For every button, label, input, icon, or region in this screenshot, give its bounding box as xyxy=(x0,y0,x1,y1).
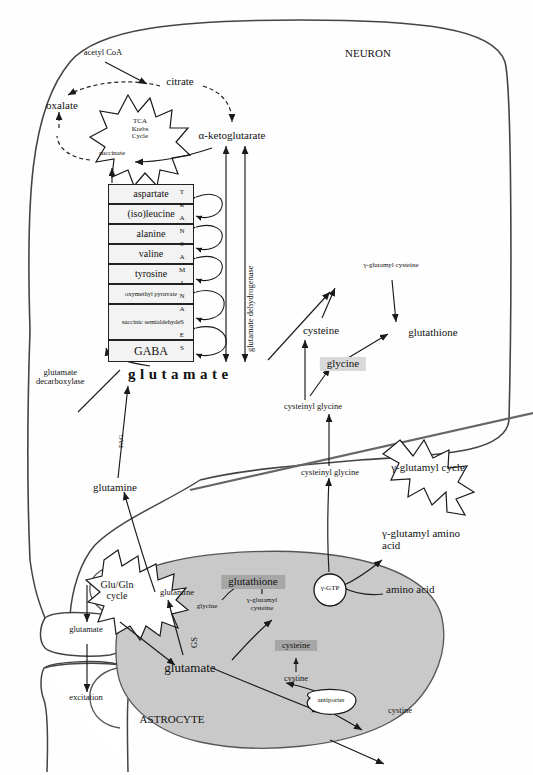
gamma-glutamyl-amino-acid-label: γ-glutamyl amino acid xyxy=(382,528,460,552)
substrate-label: alanine xyxy=(137,229,166,239)
tca-krebs-cycle-label: TCA Krebs Cycle xyxy=(132,118,149,141)
arrow-acetylcoa-citrate xyxy=(105,62,147,84)
substrate-label: succinic semialdehyde xyxy=(122,319,181,326)
oxalate-label: oxalate xyxy=(46,100,78,112)
arrow-ggtp-to-cysgly xyxy=(328,478,329,572)
astrocyte-glutamine-label: glutamine xyxy=(160,588,194,597)
alpha-ketoglutarate-label: α-ketoglutarate xyxy=(199,130,266,142)
postsynaptic-cell-outline xyxy=(41,662,131,772)
substrate-label: tyrosine xyxy=(135,269,167,279)
neuron-glycine-label: glycine xyxy=(320,357,366,371)
astrocyte-gamma-glutamyl-cysteine-label: γ-glutamyl cysteine xyxy=(247,597,277,612)
arrow-cysteinylglycine-to-glycine xyxy=(310,368,330,396)
astrocyte-glycine-label: glycine xyxy=(197,603,218,611)
astrocyte-label: ASTROCYTE xyxy=(140,714,205,726)
arrow-glycine-to-glutathione xyxy=(348,334,388,358)
astrocyte-cystine-label: cystine xyxy=(284,674,308,683)
astrocyte-cysteine-label: cysteine xyxy=(275,640,317,651)
neuron-glutathione-label: glutathione xyxy=(408,327,458,339)
substrate-label: valine xyxy=(139,249,163,259)
gamma-glutamyl-cysteine-neuron-label: γ-glutamyl cysteine xyxy=(364,262,419,270)
glutamate-main-label: glutamate xyxy=(128,366,233,382)
neuron-label: NEURON xyxy=(345,48,391,60)
transaminases-label: T R A N S A M I N A S E S xyxy=(176,186,188,355)
substrate-label: aspartate xyxy=(133,189,169,199)
tca-line-3: Cycle xyxy=(132,133,149,141)
pathway-vector-art xyxy=(0,0,533,775)
antiporter-label: antiporter xyxy=(317,697,344,705)
pag-label: PAG xyxy=(118,435,126,448)
glutamate-dehydrogenase-label: glutamate dehydrogenase xyxy=(246,265,255,352)
transaminase-arrows xyxy=(196,194,226,355)
arrow-glutamine-to-glutamate-pag xyxy=(118,386,128,478)
glu-gln-cycle-label: Glu/Gln cycle xyxy=(101,580,134,602)
gamma-gtp-label: γ-GTP xyxy=(321,585,340,593)
neuron-glutamine-label: glutamine xyxy=(93,482,137,494)
membrane-boundary-line xyxy=(190,413,533,490)
neuron-cysteinyl-glycine-label: cysteinyl glycine xyxy=(284,402,342,411)
arrow-ggc-to-glutathione xyxy=(392,280,396,322)
gamma-glutamyl-cycle-label: γ-glutamyl cycle xyxy=(391,462,465,474)
gs-label: GS xyxy=(190,637,199,648)
citrate-label: citrate xyxy=(166,76,193,88)
arrow-citrate-akg-dashed xyxy=(203,86,232,122)
neuron-cysteine-label: cysteine xyxy=(303,325,339,337)
substrate-label: GABA xyxy=(134,345,168,357)
glutamate-decarboxylase-label: glutamate decarboxylase xyxy=(36,368,85,386)
astrocyte-glutamate-label: glutamate xyxy=(164,661,215,675)
succinate-label: succinate xyxy=(99,150,125,158)
arrow-succinate-oxalate-dashed xyxy=(57,136,90,160)
excitation-label: excitation xyxy=(69,693,103,702)
extracellular-cysteinyl-glycine-label: cysteinyl glycine xyxy=(301,468,359,477)
acetyl-coa-label: acetyl CoA xyxy=(84,48,122,57)
substrate-label: oxymethyl pyruvate xyxy=(125,291,177,298)
arrow-cysteine-up xyxy=(322,288,335,318)
diagram-canvas: NEURON acetyl CoA citrate oxalate succin… xyxy=(0,0,533,775)
astrocyte-glutathione-label: glutathione xyxy=(221,575,285,589)
synaptic-glutamate-label: glutamate xyxy=(69,625,103,634)
substrate-label: (iso)leucine xyxy=(127,209,174,219)
arrow-astro-bottom-out xyxy=(330,740,384,764)
extracellular-cystine-label: cystine xyxy=(388,706,412,715)
amino-acid-label: amino acid xyxy=(386,584,435,596)
